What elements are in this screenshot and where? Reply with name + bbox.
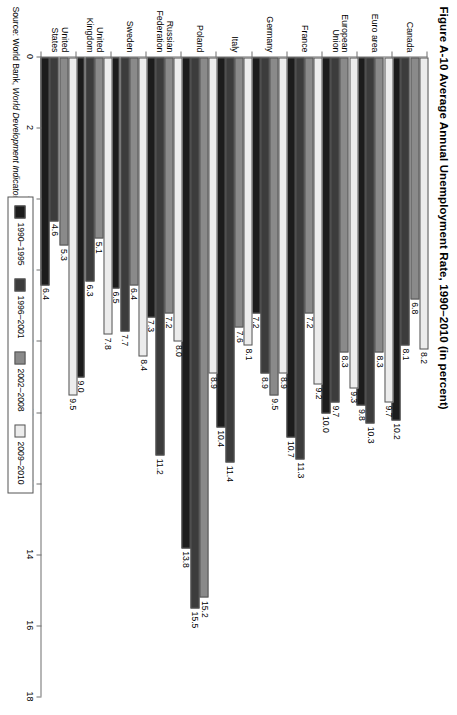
bar [208, 57, 217, 373]
bar-value-label: 15.2 [199, 597, 209, 617]
bar [68, 57, 77, 395]
bar-group-item: 8.3 [339, 57, 348, 697]
figure-canvas: Figure A-10 Average Annual Unemployment … [0, 0, 457, 715]
bar [40, 57, 49, 285]
bar [225, 57, 234, 462]
group-separator [215, 51, 216, 57]
legend-label: 2002–2008 [15, 368, 25, 411]
category-label: Euro area [370, 4, 380, 52]
figure-title: Figure A-10 Average Annual Unemployment … [437, 6, 449, 409]
bar [269, 57, 278, 395]
bar-group-item: 8.1 [400, 57, 409, 697]
group-separator [286, 51, 287, 57]
bar [410, 57, 419, 299]
bar-group-item: 8.9 [278, 57, 287, 697]
legend-item: 2002–2008 [15, 351, 26, 411]
bar [365, 57, 374, 423]
group-separator [321, 51, 322, 57]
legend-swatch [15, 278, 26, 291]
bar-group-item: 9.5 [269, 57, 278, 697]
legend-swatch [15, 351, 26, 364]
bar [295, 57, 304, 459]
bar-group-item: 8.9 [260, 57, 269, 697]
bar-group-item: 6.8 [410, 57, 419, 697]
bar-group-item: 15.2 [199, 57, 208, 697]
legend-swatch [15, 205, 26, 218]
bar [94, 57, 103, 238]
bar-group-item: 11.2 [155, 57, 164, 697]
bar-value-label: 8.9 [278, 373, 288, 388]
bar [49, 57, 58, 221]
bar-group-item: 8.4 [138, 57, 147, 697]
category-label: United Kingdom [84, 4, 103, 52]
bar-value-label: 9.7 [383, 402, 393, 417]
bar [190, 57, 199, 608]
axis-tick [36, 696, 41, 697]
category-label: Poland [194, 4, 204, 52]
bar-value-label: 7.7 [119, 331, 129, 346]
bar [234, 57, 243, 327]
bar-value-label: 11.2 [154, 455, 164, 474]
axis-tick [36, 554, 41, 555]
bar-group-item: 9.7 [330, 57, 339, 697]
bar-value-label: 8.2 [418, 349, 428, 364]
group-separator [356, 51, 357, 57]
bar-value-label: 7.6 [234, 327, 244, 342]
bar [103, 57, 112, 334]
bar [313, 57, 322, 384]
bar [304, 57, 313, 313]
bar-value-label: 8.4 [138, 356, 148, 371]
bar [260, 57, 269, 373]
bar-value-label: 7.2 [163, 313, 173, 328]
plot-area: 8.26.88.110.29.78.310.39.89.38.39.710.09… [41, 56, 427, 696]
axis-tick-label: 0 [24, 53, 34, 58]
category-label: Russian Federation [154, 4, 173, 52]
value-axis-line [40, 56, 41, 696]
category-label: European Union [330, 4, 349, 52]
legend-label: 2009–2010 [15, 441, 25, 484]
category-label: United States [49, 4, 68, 52]
bar-group-item: 7.2 [304, 57, 313, 697]
bar-group-item: 15.5 [190, 57, 199, 697]
bar [243, 57, 252, 345]
bar [339, 57, 348, 352]
category-label: Germany [264, 4, 274, 52]
bar-group-item: 6.4 [129, 57, 138, 697]
axis-tick [36, 56, 41, 57]
bar-value-label: 9.2 [313, 384, 323, 399]
bar-group-item: 6.3 [85, 57, 94, 697]
bar-group-item: 7.8 [103, 57, 112, 697]
bar-value-label: 8.1 [400, 345, 410, 360]
axis-tick [36, 127, 41, 128]
bar-value-label: 8.9 [208, 373, 218, 388]
axis-tick [36, 198, 41, 199]
bar [85, 57, 94, 281]
axis-cap-top [426, 51, 427, 57]
bar-value-label: 4.6 [49, 221, 59, 236]
bar-value-label: 11.3 [295, 459, 305, 478]
legend-item: 1996–2001 [15, 278, 26, 338]
legend: 1990–19951996–20012002–20082009–2010 [7, 196, 33, 493]
bar-group-item: 7.7 [120, 57, 129, 697]
axis-tick-label: 14 [24, 549, 34, 559]
bar [59, 57, 68, 245]
axis-tick [36, 269, 41, 270]
bar [155, 57, 164, 455]
bar-value-label: 9.5 [67, 395, 77, 410]
bar-group-item: 11.4 [225, 57, 234, 697]
bar-group-item: 10.3 [365, 57, 374, 697]
axis-tick-label: 18 [24, 691, 34, 701]
bar-value-label: 9.5 [269, 395, 279, 410]
bar-group-item: 8.2 [419, 57, 428, 697]
axis-tick [36, 412, 41, 413]
group-separator [251, 51, 252, 57]
bar [330, 57, 339, 402]
bar-value-label: 6.3 [84, 281, 94, 296]
bar-value-label: 5.1 [93, 238, 103, 253]
bar [173, 57, 182, 341]
bar [278, 57, 287, 373]
legend-label: 1990–1995 [15, 222, 25, 265]
bar [129, 57, 138, 285]
bar [138, 57, 147, 356]
bar-value-label: 7.2 [304, 313, 314, 328]
